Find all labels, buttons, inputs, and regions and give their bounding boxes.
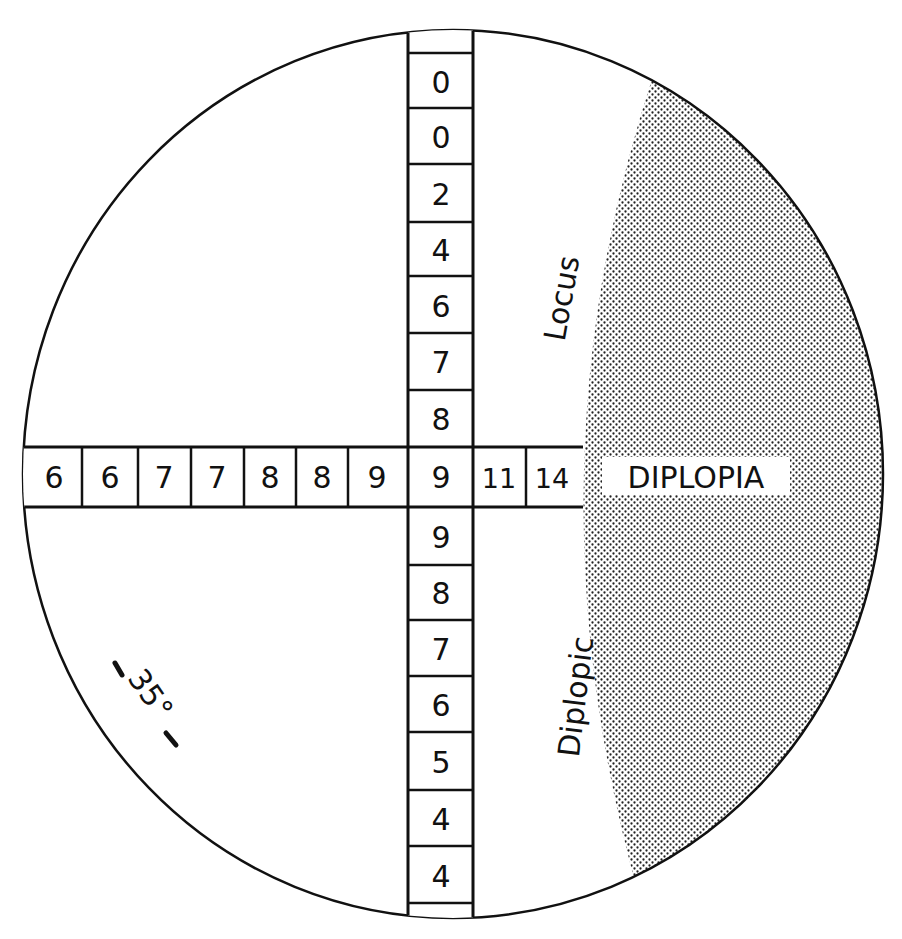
cell-right-1: 11 [482,463,516,494]
cell-left-4: 7 [207,460,226,495]
cell-up-4: 4 [431,233,450,268]
cell-down-2: 8 [431,576,450,611]
cell-down-5: 5 [431,745,450,780]
cell-left-1: 9 [367,460,386,495]
diplopia-chart: 0 0 2 4 6 7 8 9 9 8 7 6 5 4 4 6 6 7 7 8 … [0,0,902,939]
cell-down-7: 4 [431,859,450,894]
cell-left-3: 8 [260,460,279,495]
cell-left-7: 6 [44,460,63,495]
cell-up-7: 8 [431,402,450,437]
cell-up-6: 7 [431,345,450,380]
cell-up-1: 0 [431,65,450,100]
cell-down-3: 7 [431,632,450,667]
vertical-values: 0 0 2 4 6 7 8 9 9 8 7 6 5 4 4 [431,65,450,894]
cell-left-2: 8 [312,460,331,495]
diplopia-label: DIPLOPIA [628,460,765,495]
cell-up-5: 6 [431,289,450,324]
angle-label: 35° [121,662,180,726]
cell-down-4: 6 [431,688,450,723]
cell-up-2: 0 [431,120,450,155]
cell-down-6: 4 [431,802,450,837]
cell-right-2: 14 [535,463,569,494]
cell-left-5: 7 [154,460,173,495]
cell-down-1: 9 [431,520,450,555]
angle-marker: 35° [115,662,180,745]
locus-label: Locus [537,253,586,343]
cell-up-3: 2 [431,177,450,212]
cell-left-6: 6 [100,460,119,495]
diplopic-label: Diplopic [551,635,600,759]
cell-center: 9 [431,460,450,495]
